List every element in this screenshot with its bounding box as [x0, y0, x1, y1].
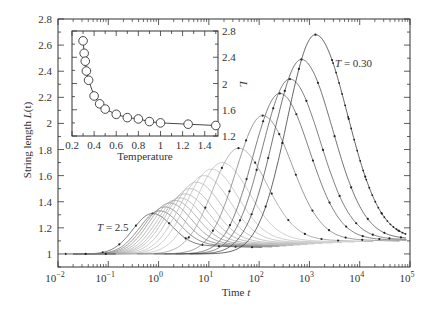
- annotation-t-2-5: T = 2.5: [97, 221, 129, 233]
- y-tick-label: 2.2: [38, 91, 52, 103]
- inset-marker: [79, 37, 88, 46]
- inset-x-tick-label: 0.2: [65, 139, 79, 151]
- y-tick-label: 1.4: [38, 196, 52, 208]
- x-tick-label: 10−1: [96, 270, 116, 284]
- inset-marker: [80, 49, 89, 58]
- annotation-t-0-30: T = 0.30: [335, 57, 373, 69]
- inset-y-axis-label: L: [238, 80, 250, 87]
- temperature-curve: [86, 169, 342, 254]
- inset-marker: [156, 119, 165, 128]
- inset-marker: [123, 113, 132, 122]
- inset-plot: 0.20.40.60.811.21.41.21.622.42.8: [65, 25, 236, 151]
- string-length-chart: 10−210−110010110210310410511.21.41.61.82…: [0, 0, 433, 309]
- inset-y-tick-label: 1.6: [222, 104, 236, 116]
- x-tick-label: 10−2: [45, 270, 65, 284]
- temperature-curve: [113, 148, 374, 254]
- inset-marker: [184, 120, 193, 129]
- inset-marker: [211, 121, 220, 130]
- y-tick-label: 1.8: [38, 144, 52, 156]
- x-tick-label: 101: [198, 270, 213, 284]
- inset-y-tick-label: 2.4: [222, 51, 236, 63]
- inset-marker: [82, 67, 91, 76]
- temperature-curve: [190, 35, 406, 254]
- inset-y-tick-label: 2.8: [222, 25, 236, 37]
- inset-marker: [90, 92, 99, 101]
- y-tick-label: 2.6: [38, 39, 52, 51]
- inset-marker: [112, 110, 121, 119]
- x-tick-label: 105: [400, 270, 415, 284]
- x-tick-label: 102: [249, 270, 264, 284]
- inset-x-tick-label: 1.4: [198, 139, 212, 151]
- y-tick-label: 1: [47, 248, 53, 260]
- x-tick-label: 104: [349, 270, 364, 284]
- inset-marker: [84, 76, 93, 85]
- inset-x-tick-label: 1.2: [176, 139, 190, 151]
- inset-marker: [134, 115, 143, 124]
- x-axis-label: Time t: [222, 286, 252, 298]
- y-axis-label: String length L(t): [21, 101, 34, 178]
- x-tick-label: 100: [148, 270, 163, 284]
- inset-x-tick-label: 0.4: [87, 139, 101, 151]
- inset-marker: [81, 57, 90, 66]
- temperature-curve: [78, 176, 333, 254]
- inset-marker: [101, 105, 110, 114]
- inset-y-tick-label: 2: [222, 78, 228, 90]
- inset-x-axis-label: Temperature: [117, 150, 173, 162]
- y-tick-label: 1.6: [38, 170, 52, 182]
- x-tick-label: 103: [299, 270, 314, 284]
- y-tick-label: 2.8: [38, 13, 52, 25]
- y-tick-label: 2: [47, 117, 53, 129]
- y-tick-label: 1.2: [38, 222, 52, 234]
- y-tick-label: 2.4: [38, 65, 52, 77]
- inset-y-tick-label: 1.2: [222, 130, 236, 142]
- inset-marker: [145, 117, 154, 126]
